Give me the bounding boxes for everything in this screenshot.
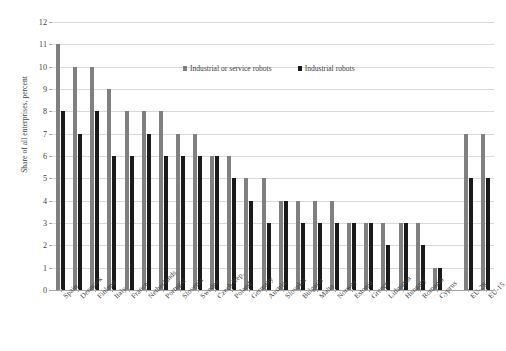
bar-group: [52, 22, 69, 290]
legend-label: Industrial robots: [305, 64, 355, 73]
bar: [198, 156, 202, 290]
x-label-slot: Germany: [240, 292, 257, 350]
bar-group: [275, 22, 292, 290]
bar: [125, 111, 129, 290]
x-label-slot: Portugal: [155, 292, 172, 350]
bar: [56, 44, 60, 290]
y-tick-label-0: 0: [43, 286, 47, 295]
y-tick-label-1: 1: [43, 263, 47, 272]
y-tick-label-6: 6: [43, 152, 47, 161]
x-tick-mark: [198, 289, 199, 292]
y-tick-label-10: 10: [39, 62, 47, 71]
x-label-slot: Cyprus: [429, 292, 446, 350]
bar: [130, 156, 134, 290]
bar-group: [395, 22, 412, 290]
x-label-slot: EU-28: [460, 292, 477, 350]
bar: [112, 156, 116, 290]
bar-group: [206, 22, 223, 290]
bar: [73, 67, 77, 290]
bar: [164, 156, 168, 290]
bar: [78, 134, 82, 290]
bar: [210, 156, 214, 290]
x-label-slot: Poland: [223, 292, 240, 350]
bar: [335, 223, 339, 290]
bar-group: [429, 22, 446, 290]
bar: [193, 134, 197, 290]
y-tick-label-12: 12: [39, 18, 47, 27]
legend-swatch-icon: [298, 66, 302, 71]
bar-group: [377, 22, 394, 290]
bar-group: [103, 22, 120, 290]
y-tick-mark-0: [49, 290, 52, 291]
legend-entry[interactable]: Industrial robots: [298, 64, 355, 73]
y-axis-title: Share of all enterprises, percent: [20, 25, 29, 225]
bar-group: [240, 22, 257, 290]
bar-group: [360, 22, 377, 290]
bar-group: [69, 22, 86, 290]
bar-group: [189, 22, 206, 290]
plot-area: 1211109876543210: [52, 22, 494, 290]
x-label-slot: Lithuania: [377, 292, 394, 350]
x-tick-mark: [335, 289, 336, 292]
bar: [330, 201, 334, 290]
bar-group: [460, 22, 477, 290]
bar: [249, 201, 253, 290]
y-tick-label-2: 2: [43, 241, 47, 250]
bar: [469, 178, 473, 290]
x-label-slot: Czech Rep.: [206, 292, 223, 350]
x-label-slot: France: [121, 292, 138, 350]
bar: [95, 111, 99, 290]
chart-legend: Industrial or service robotsIndustrial r…: [183, 64, 355, 73]
x-label-slot: Malta: [309, 292, 326, 350]
bar-group: [223, 22, 240, 290]
x-tick-mark: [61, 289, 62, 292]
bar: [181, 156, 185, 290]
x-label-slot: Greece: [360, 292, 377, 350]
x-label-slot: Bulgaria: [292, 292, 309, 350]
bar: [215, 156, 219, 290]
x-label-slot: Slovakia: [275, 292, 292, 350]
x-label-slot: Estonia: [343, 292, 360, 350]
y-tick-label-3: 3: [43, 219, 47, 228]
x-label-spacer: [446, 292, 460, 350]
bar-group: [121, 22, 138, 290]
x-label-slot: Hungary: [395, 292, 412, 350]
bar: [159, 111, 163, 290]
bar: [61, 111, 65, 290]
x-label-slot: Austria: [258, 292, 275, 350]
y-tick-label-8: 8: [43, 107, 47, 116]
x-label-slot: EU-15: [477, 292, 494, 350]
legend-entry[interactable]: Industrial or service robots: [183, 64, 272, 73]
bar: [279, 201, 283, 290]
bar-group-spacer: [446, 22, 460, 290]
x-label-slot: Netherlands: [138, 292, 155, 350]
bar: [147, 134, 151, 290]
bar: [227, 156, 231, 290]
x-label-slot: Norway: [326, 292, 343, 350]
y-tick-label-9: 9: [43, 85, 47, 94]
bar-group: [309, 22, 326, 290]
bar-group: [326, 22, 343, 290]
x-label-slot: Finland: [86, 292, 103, 350]
x-label-slot: Slovenia: [172, 292, 189, 350]
y-tick-label-4: 4: [43, 196, 47, 205]
bar-group: [138, 22, 155, 290]
bar: [284, 201, 288, 290]
bar: [262, 178, 266, 290]
bar: [90, 67, 94, 290]
bar-series-container: [52, 22, 494, 290]
bar-group: [86, 22, 103, 290]
bar: [107, 89, 111, 290]
bar: [142, 111, 146, 290]
bar: [486, 178, 490, 290]
bar: [464, 134, 468, 290]
x-label-slot: Italy: [103, 292, 120, 350]
y-tick-label-5: 5: [43, 174, 47, 183]
bar: [481, 134, 485, 290]
bar-group: [155, 22, 172, 290]
y-tick-label-7: 7: [43, 129, 47, 138]
bar: [244, 178, 248, 290]
x-axis-labels: SpainDenmarkFinlandItalyFranceNetherland…: [52, 292, 494, 350]
bar-group: [258, 22, 275, 290]
